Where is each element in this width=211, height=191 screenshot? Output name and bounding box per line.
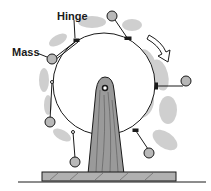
mass-bottom-left	[70, 157, 80, 167]
hinge-leader	[74, 20, 75, 38]
hinge-label: Hinge	[57, 11, 88, 22]
mass-left	[45, 117, 55, 127]
mass-right	[181, 76, 191, 86]
axle-pivot	[103, 86, 108, 91]
overbalanced-wheel-illustration	[0, 0, 211, 191]
mass-bottom-right	[144, 148, 154, 158]
mass-label: Mass	[12, 47, 40, 58]
mass-labeled	[47, 54, 57, 64]
base-plank	[42, 172, 176, 181]
mass-top	[107, 11, 117, 21]
